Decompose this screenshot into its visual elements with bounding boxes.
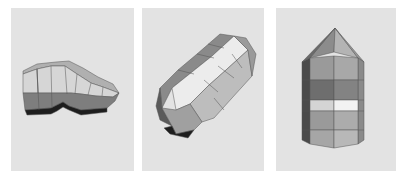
prism-shape-1: [11, 8, 134, 171]
panel-prism-side-view: [11, 8, 134, 171]
panel-prism-upright-view: [276, 8, 396, 171]
panel-prism-diagonal-view: [142, 8, 264, 171]
prism-shape-2: [142, 8, 264, 171]
prism-shape-3: [276, 8, 396, 171]
